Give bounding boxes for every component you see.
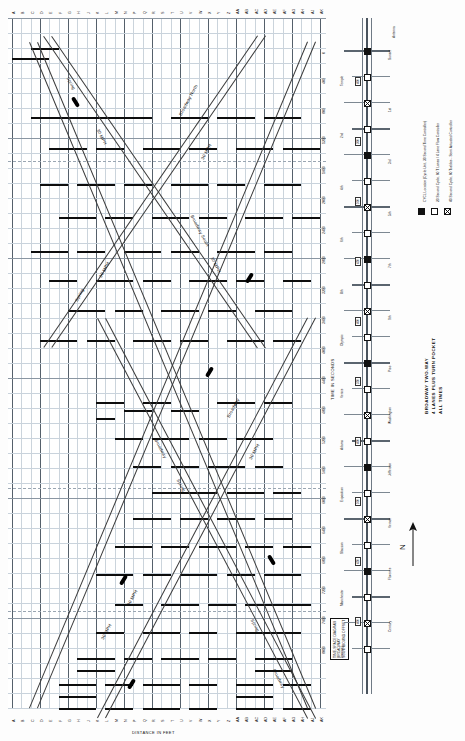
top-tick-label: A	[12, 12, 16, 14]
green-band	[236, 684, 273, 686]
signal-node	[364, 490, 371, 497]
green-band	[40, 184, 68, 186]
antenna-label: Antenna	[392, 26, 396, 38]
green-band	[236, 148, 273, 150]
cross-street-label: Venice	[340, 388, 344, 398]
horizontal-gridline	[8, 693, 326, 694]
bottom-tick-label: B	[21, 720, 25, 722]
green-band	[273, 492, 301, 494]
green-band	[236, 708, 273, 710]
cross-street-label: Century	[388, 621, 392, 632]
green-band	[96, 632, 124, 634]
horizontal-gridline	[8, 288, 326, 289]
distance-label: 7200	[322, 586, 326, 594]
cross-street-label: Olympic	[340, 334, 344, 346]
block-length-label: 400	[355, 77, 361, 86]
green-band	[283, 604, 311, 606]
bottom-tick-label: N	[124, 719, 128, 722]
signal-node	[364, 178, 371, 185]
green-band	[115, 438, 143, 440]
green-band	[189, 632, 217, 634]
reference-line	[8, 488, 326, 489]
green-band	[143, 148, 180, 150]
time-space-chart: Spring30 MPHBroadway North30 MPHBroadway…	[8, 18, 326, 708]
bottom-tick-label: S	[161, 720, 165, 722]
green-band	[31, 48, 59, 50]
horizontal-gridline	[8, 543, 326, 544]
green-band	[189, 684, 217, 686]
distance-label: 6800	[322, 556, 326, 564]
green-band	[217, 117, 255, 119]
bottom-tick-label: AG	[292, 717, 296, 722]
legend-item-label: CYCL Location (Cycle Unit, 30 Second Tim…	[423, 121, 427, 202]
green-band	[208, 658, 236, 660]
bottom-tick-label: P	[133, 720, 137, 722]
green-band	[283, 546, 311, 548]
bottom-tick-label: AF	[283, 717, 287, 722]
cross-street-label: Manchester	[340, 589, 344, 606]
bottom-tick-label: AJ	[311, 718, 315, 722]
cross-street-label: 8th	[340, 290, 344, 294]
diagram-sheet: Spring30 MPHBroadway North30 MPHBroadway…	[0, 0, 465, 741]
block-length-label: 400	[355, 317, 361, 326]
distance-label: 2000	[322, 196, 326, 204]
green-band	[96, 402, 124, 404]
cross-street-label: 9th	[388, 316, 392, 320]
bottom-tick-label: C	[31, 719, 35, 722]
cross-street-label: 5th	[388, 212, 392, 216]
block-length-label: 450	[355, 557, 361, 566]
horizontal-gridline	[8, 228, 326, 229]
horizontal-gridline	[8, 138, 326, 139]
top-tick-label: AC	[255, 9, 259, 14]
green-band	[124, 184, 152, 186]
horizontal-gridline	[8, 333, 326, 334]
signal-node	[364, 464, 371, 471]
cross-street-label: Slauson	[340, 542, 344, 554]
horizontal-gridline	[8, 528, 326, 529]
distance-label: 3600	[322, 316, 326, 324]
green-band	[59, 217, 96, 219]
cross-street-label: Washington	[388, 407, 392, 424]
top-tick-label: Z	[227, 12, 231, 14]
top-tick-label: AA	[236, 9, 240, 14]
green-band	[143, 574, 171, 576]
top-tick-label: AJ	[311, 10, 315, 14]
horizontal-gridline	[8, 18, 326, 19]
top-tick-label: AB	[245, 9, 249, 14]
horizontal-gridline	[8, 588, 326, 589]
distance-label: 3200	[322, 286, 326, 294]
top-tick-label: S	[161, 12, 165, 14]
horizontal-gridline	[8, 513, 326, 514]
green-band	[180, 574, 217, 576]
green-band	[124, 410, 152, 412]
reference-line	[8, 161, 326, 162]
signal-node	[364, 48, 371, 55]
green-band	[115, 546, 152, 548]
distance-label: 0	[322, 52, 326, 54]
top-tick-label: F	[59, 12, 63, 14]
green-band	[161, 658, 199, 660]
cross-street-line	[352, 284, 390, 286]
trace-label: 30 MPH	[200, 143, 212, 160]
signal-node	[364, 594, 371, 601]
green-band	[292, 217, 320, 219]
horizontal-gridline	[8, 63, 326, 64]
north-arrow-icon: N	[398, 520, 428, 570]
green-band	[59, 696, 96, 698]
corridor-edge-left	[362, 18, 363, 694]
top-tick-label: E	[49, 12, 53, 14]
signal-node	[364, 334, 371, 341]
horizontal-gridline	[8, 198, 326, 199]
distance-label: 5600	[322, 466, 326, 474]
cross-street-label: Vernon	[388, 518, 392, 528]
green-band	[68, 310, 105, 312]
distance-label: 4000	[322, 346, 326, 354]
legend-item-label: 40 Second Cycle, 60 Tcables - Semi Actua…	[449, 120, 453, 202]
green-band	[227, 340, 264, 342]
horizontal-gridline	[8, 273, 326, 274]
bottom-tick-label: AB	[245, 717, 249, 722]
green-band	[77, 658, 115, 660]
cross-street-label: Florence	[388, 568, 392, 580]
reference-line	[8, 611, 326, 612]
distance-label: 400	[322, 78, 326, 84]
